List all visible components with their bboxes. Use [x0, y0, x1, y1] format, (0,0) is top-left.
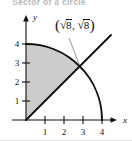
y-tick-label-2: 2 — [15, 77, 20, 87]
x-tick-label-2: 2 — [62, 127, 67, 137]
label-comma: , — [72, 19, 75, 31]
figure-panel: Sector of a circle 1 2 3 4 1 — [0, 0, 132, 141]
y-axis-label: y — [32, 12, 37, 22]
x-axis-arrowhead — [111, 117, 118, 123]
y-tick-label-1: 1 — [15, 96, 20, 106]
x-axis-label: x — [122, 115, 127, 125]
intersection-point-label: (√8, √8) — [55, 18, 95, 33]
bottom-divider — [0, 140, 132, 141]
x-tick-label-4: 4 — [100, 127, 105, 137]
y-tick-label-4: 4 — [15, 39, 20, 49]
y-tick-label-3: 3 — [15, 58, 20, 68]
x-tick-label-3: 3 — [81, 127, 86, 137]
label-close-paren: ) — [90, 17, 95, 33]
x-tick-label-1: 1 — [43, 127, 48, 137]
y-axis-arrowhead — [23, 15, 29, 22]
shaded-sector — [26, 44, 80, 120]
